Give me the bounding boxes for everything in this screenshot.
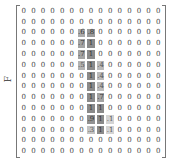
matrix-cell: 0: [134, 49, 144, 60]
matrix-cell: 0: [19, 103, 29, 114]
matrix-cell: 0: [67, 6, 77, 17]
matrix-cell: 0: [144, 125, 154, 136]
matrix-cell: 0: [77, 103, 87, 114]
matrix-cell: 0: [67, 114, 77, 125]
matrix-cell: 0: [115, 114, 125, 125]
matrix-cell: 0: [38, 60, 48, 71]
matrix-cell: 0: [144, 71, 154, 82]
matrix-cell: 0: [115, 125, 125, 136]
matrix-cell: 0: [38, 92, 48, 103]
matrix-cell: 0: [29, 6, 39, 17]
matrix-grid: 000000000000000000000000000000000000.6.8…: [19, 6, 163, 157]
matrix-cell: 0: [77, 71, 87, 82]
matrix-cell: 0: [29, 103, 39, 114]
matrix-cell: .1: [106, 115, 114, 124]
matrix-cell: 0: [38, 103, 48, 114]
matrix-cell: 0: [134, 38, 144, 49]
matrix-cell: 0: [57, 17, 67, 28]
matrix-cell: 0: [29, 17, 39, 28]
matrix-cell: 0: [96, 28, 106, 39]
matrix-cell: 0: [125, 71, 135, 82]
matrix-cell: 0: [115, 38, 125, 49]
matrix-cell: 0: [125, 81, 135, 92]
matrix-cell: 0: [29, 146, 39, 157]
matrix-cell: 0: [153, 103, 163, 114]
matrix-cell: 0: [48, 81, 58, 92]
matrix-cell: 0: [77, 6, 87, 17]
matrix-cell: .6: [78, 29, 86, 38]
matrix-cell: 0: [96, 17, 106, 28]
matrix-cell: 0: [19, 38, 29, 49]
matrix-cell: 0: [134, 17, 144, 28]
matrix-cell: 0: [125, 103, 135, 114]
matrix-cell: 0: [125, 146, 135, 157]
matrix-cell: 0: [134, 135, 144, 146]
matrix-cell: 0: [57, 81, 67, 92]
matrix-cell: 0: [77, 146, 87, 157]
matrix-cell: 0: [144, 135, 154, 146]
matrix-cell: 0: [77, 17, 87, 28]
matrix-cell: 1: [87, 82, 95, 91]
matrix-cell: 0: [48, 60, 58, 71]
matrix-cell: 0: [153, 49, 163, 60]
matrix-cell: 0: [29, 125, 39, 136]
matrix-cell: 0: [134, 71, 144, 82]
matrix-cell: 0: [48, 71, 58, 82]
matrix-cell: 0: [19, 92, 29, 103]
matrix-cell: 0: [57, 6, 67, 17]
matrix-cell: 0: [125, 38, 135, 49]
matrix-cell: 0: [115, 103, 125, 114]
matrix-cell: 0: [105, 38, 115, 49]
matrix-cell: 0: [115, 6, 125, 17]
matrix-cell: 0: [134, 60, 144, 71]
matrix-cell: 0: [38, 146, 48, 157]
matrix-cell: 0: [86, 135, 96, 146]
matrix-cell: 0: [19, 71, 29, 82]
matrix-cell: 0: [48, 146, 58, 157]
matrix-cell: 0: [105, 17, 115, 28]
matrix-cell: 0: [115, 28, 125, 39]
matrix-cell: 0: [77, 92, 87, 103]
matrix-cell: 0: [29, 92, 39, 103]
matrix-cell: 0: [29, 38, 39, 49]
matrix-cell: 0: [57, 60, 67, 71]
matrix-cell: 0: [38, 135, 48, 146]
matrix-cell: 0: [86, 6, 96, 17]
matrix-cell: 0: [38, 28, 48, 39]
matrix-cell: 0: [105, 146, 115, 157]
matrix-cell: 0: [125, 28, 135, 39]
matrix-cell: 0: [57, 125, 67, 136]
matrix-cell: 0: [29, 60, 39, 71]
matrix-cell: 0: [125, 6, 135, 17]
matrix-cell: 0: [48, 38, 58, 49]
matrix-cell: 0: [153, 125, 163, 136]
matrix-cell: 0: [96, 6, 106, 17]
matrix-cell: 0: [105, 6, 115, 17]
matrix-cell: 0: [48, 17, 58, 28]
matrix-cell: .7: [78, 39, 86, 48]
matrix-cell: 0: [67, 135, 77, 146]
matrix-cell: 1: [87, 39, 95, 48]
matrix-cell: 0: [77, 81, 87, 92]
matrix-cell: 0: [86, 146, 96, 157]
matrix-cell: .3: [87, 126, 95, 135]
matrix-cell: 0: [57, 28, 67, 39]
matrix-cell: 0: [19, 135, 29, 146]
matrix-cell: 0: [125, 114, 135, 125]
matrix-cell: 0: [67, 146, 77, 157]
matrix-cell: 0: [29, 81, 39, 92]
matrix-cell: 0: [67, 103, 77, 114]
matrix-cell: 0: [153, 17, 163, 28]
matrix-cell: .7: [97, 93, 105, 102]
matrix-cell: 0: [134, 6, 144, 17]
matrix-cell: 0: [144, 6, 154, 17]
matrix-cell: 0: [77, 114, 87, 125]
matrix-cell: 0: [105, 103, 115, 114]
matrix-cell: 0: [144, 146, 154, 157]
matrix-cell: 0: [67, 81, 77, 92]
matrix-cell: 0: [67, 49, 77, 60]
matrix-cell: 0: [57, 114, 67, 125]
matrix-cell: 0: [134, 103, 144, 114]
matrix-cell: .4: [97, 72, 105, 81]
matrix-cell: .4: [97, 61, 105, 70]
